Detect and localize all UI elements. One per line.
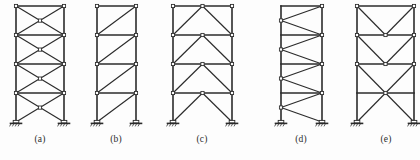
- frame-e: [351, 4, 420, 126]
- frame-caption-e: (e): [380, 134, 391, 144]
- frame-caption-b: (b): [110, 134, 122, 144]
- frame-d-beams: [281, 6, 322, 93]
- frame-b-supports: [91, 120, 142, 126]
- frame-caption-c: (c): [196, 134, 207, 144]
- frames-diagram-svg: .m { stroke: #2b2b2b; stroke-width: 1.6;…: [0, 0, 420, 160]
- frame-c-joints: [171, 4, 233, 94]
- frame-caption-a: (a): [34, 134, 45, 144]
- frame-c-beams: [173, 6, 232, 93]
- frame-a: [10, 4, 70, 126]
- frame-e-supports: [351, 120, 420, 126]
- frame-c: [167, 4, 238, 126]
- braced-frames-figure: .m { stroke: #2b2b2b; stroke-width: 1.6;…: [0, 0, 420, 160]
- frame-d: [275, 4, 328, 126]
- frame-caption-d: (d): [295, 134, 307, 144]
- frame-e-joints: [355, 4, 415, 94]
- frame-e-beams: [357, 6, 414, 93]
- frame-b: [91, 4, 142, 126]
- frame-d-supports: [275, 120, 328, 126]
- frame-a-supports: [10, 120, 70, 126]
- frame-c-supports: [167, 120, 238, 126]
